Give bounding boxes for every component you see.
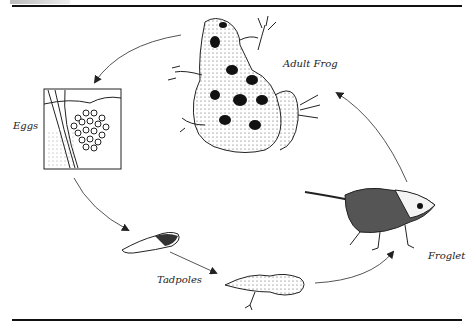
label-adult-frog: Adult Frog — [283, 58, 338, 69]
arrow-eggs-to-tadpole — [74, 178, 128, 230]
life-cycle-diagram — [0, 0, 474, 326]
arrow-tadpole-to-froglet — [315, 252, 393, 283]
label-eggs: Eggs — [13, 120, 38, 131]
froglet-illustration — [305, 188, 435, 250]
arrow-tadpole-to-tadpole — [170, 252, 216, 273]
arrow-froglet-to-adult — [337, 93, 407, 182]
adult-frog-illustration — [168, 16, 320, 153]
tadpole-late-illustration — [225, 274, 304, 310]
label-tadpoles: Tadpoles — [157, 274, 202, 285]
eggs-illustration — [44, 89, 121, 169]
arrow-adult-to-eggs — [95, 35, 181, 82]
tadpole-early-illustration — [122, 232, 179, 253]
label-froglet: Froglet — [428, 250, 465, 261]
